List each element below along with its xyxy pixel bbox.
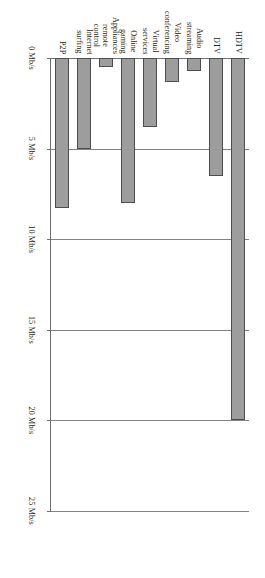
axis-tick-label: 5 Mb/s — [27, 137, 36, 161]
category-label-text: Appliances remote control — [92, 17, 121, 54]
axis-tick-label: 25 Mb/s — [27, 497, 36, 525]
category-label: DTV — [211, 37, 221, 54]
bar — [121, 58, 135, 203]
category-label-text: HDTV — [233, 31, 243, 54]
category-label: Virtual services — [140, 28, 159, 54]
bar — [187, 58, 201, 71]
gridline — [51, 239, 249, 240]
axis-tick — [47, 511, 51, 512]
gridline — [51, 420, 249, 421]
category-label-text: Internet surfing — [74, 29, 93, 54]
category-label: Video conferencing — [162, 11, 181, 54]
axis-tick-label: 0 Mb/s — [27, 46, 36, 70]
category-label: P2P — [57, 41, 67, 54]
gridline — [51, 330, 249, 331]
category-label-text: Audio streaming — [184, 22, 203, 54]
category-label-text: Video conferencing — [162, 11, 181, 54]
category-label: HDTV — [233, 31, 243, 54]
gridline — [51, 511, 249, 512]
axis-tick — [47, 330, 51, 331]
bar — [77, 58, 91, 149]
bar — [55, 58, 69, 208]
axis-tick-label: 15 Mb/s — [27, 316, 36, 344]
category-label: Appliances remote control — [92, 17, 121, 54]
category-label-text: Online gaming — [118, 29, 137, 54]
category-label-text: DTV — [211, 37, 221, 54]
axis-tick — [47, 239, 51, 240]
axis-tick — [47, 149, 51, 150]
bar — [209, 58, 223, 176]
axis-tick — [47, 58, 51, 59]
category-label: Audio streaming — [184, 22, 203, 54]
plot-area: 0 Mb/s5 Mb/s10 Mb/s15 Mb/s20 Mb/s25 Mb/s… — [51, 58, 249, 511]
axis-tick-label: 20 Mb/s — [27, 407, 36, 435]
category-label: Internet surfing — [74, 29, 93, 54]
category-axis-spine — [50, 58, 51, 511]
rotated-figure-container: 0 Mb/s5 Mb/s10 Mb/s15 Mb/s20 Mb/s25 Mb/s… — [0, 0, 265, 578]
bar — [99, 58, 113, 67]
bar — [231, 58, 245, 420]
category-label-text: P2P — [57, 41, 67, 54]
bar — [165, 58, 179, 82]
axis-tick — [47, 420, 51, 421]
bar — [143, 58, 157, 127]
category-label: Online gaming — [118, 29, 137, 54]
category-label-text: Virtual services — [140, 28, 159, 54]
bandwidth-bar-chart: 0 Mb/s5 Mb/s10 Mb/s15 Mb/s20 Mb/s25 Mb/s… — [0, 0, 265, 578]
axis-tick-label: 10 Mb/s — [27, 225, 36, 253]
